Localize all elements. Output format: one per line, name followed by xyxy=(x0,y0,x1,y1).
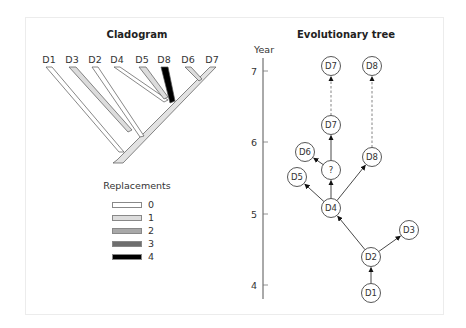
svg-text:D8: D8 xyxy=(366,152,378,162)
svg-text:D8: D8 xyxy=(366,61,378,71)
node-d1: D1 xyxy=(362,284,381,303)
node-q: ? xyxy=(322,161,341,180)
node-d3: D3 xyxy=(400,221,419,240)
svg-text:D4: D4 xyxy=(325,203,337,213)
node-d7top: D7 xyxy=(322,57,341,76)
node-d6: D6 xyxy=(296,143,315,162)
edge-d4-d5 xyxy=(305,184,324,202)
svg-text:D7: D7 xyxy=(325,120,337,130)
tick-label: 5 xyxy=(251,209,257,220)
node-d4: D4 xyxy=(322,199,341,218)
tree-edges xyxy=(305,77,401,284)
tick-label: 7 xyxy=(251,66,257,77)
node-d7mid: D7 xyxy=(322,116,341,135)
evolutionary-tree: Year 7654 D7D8D7D6?D8D5D4D3D2D1 xyxy=(0,0,466,328)
edge-d2-d4 xyxy=(338,216,365,250)
svg-text:D3: D3 xyxy=(403,225,415,235)
tree-nodes: D7D8D7D6?D8D5D4D3D2D1 xyxy=(288,57,419,303)
edge-d2-d3 xyxy=(379,236,401,251)
axis-label: Year xyxy=(253,44,274,55)
svg-text:D6: D6 xyxy=(299,147,311,157)
node-d8mid: D8 xyxy=(363,148,382,167)
node-d2: D2 xyxy=(362,248,381,267)
svg-text:D7: D7 xyxy=(325,61,337,71)
edge-d4-d8mid xyxy=(337,165,365,200)
edge-q-d6 xyxy=(314,158,324,165)
svg-text:D1: D1 xyxy=(365,288,377,298)
tick-label: 6 xyxy=(251,137,257,148)
tick-label: 4 xyxy=(251,280,257,291)
node-d8top: D8 xyxy=(363,57,382,76)
year-axis: Year 7654 xyxy=(251,44,274,299)
node-d5: D5 xyxy=(288,168,307,187)
svg-text:D5: D5 xyxy=(291,172,303,182)
svg-text:D2: D2 xyxy=(365,252,377,262)
svg-text:?: ? xyxy=(329,165,334,175)
